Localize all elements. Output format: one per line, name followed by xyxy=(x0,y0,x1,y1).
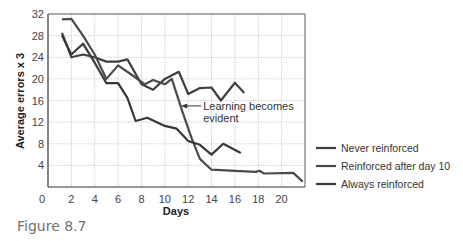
x-tick-label: 14 xyxy=(205,193,217,205)
x-tick-label: 12 xyxy=(182,193,194,205)
annotation-text: evident xyxy=(203,112,238,124)
y-tick-label: 4 xyxy=(38,159,44,171)
learning-annotation: Learning becomesevident xyxy=(181,100,294,124)
x-tick-label: 18 xyxy=(252,193,264,205)
x-tick-label: 4 xyxy=(92,193,98,205)
y-tick-label: 16 xyxy=(32,95,44,107)
line-chart: 02468101214161820 48121620242832 Learnin… xyxy=(0,0,463,241)
x-tick-label: 10 xyxy=(159,193,171,205)
legend-label-always-reinforced: Always reinforced xyxy=(341,178,424,190)
y-axis-tick-labels: 48121620242832 xyxy=(32,8,44,171)
figure-caption: Figure 8.7 xyxy=(17,218,86,234)
y-tick-label: 8 xyxy=(38,138,44,150)
legend-label-never-reinforced: Never reinforced xyxy=(341,142,419,154)
y-axis-title: Average errors x 3 xyxy=(14,53,26,149)
y-tick-label: 24 xyxy=(32,51,44,63)
x-tick-label: 8 xyxy=(138,193,144,205)
series-line-never-reinforced xyxy=(62,33,244,101)
y-tick-label: 20 xyxy=(32,73,44,85)
x-tick-label: 2 xyxy=(68,193,74,205)
x-axis-title: Days xyxy=(163,205,189,217)
x-tick-label: 20 xyxy=(276,193,288,205)
annotation-text: Learning becomes xyxy=(203,100,294,112)
series-line-always-reinforced xyxy=(62,36,241,155)
y-tick-label: 12 xyxy=(32,116,44,128)
x-axis-tick-labels: 02468101214161820 xyxy=(39,193,288,205)
x-tick-label: 6 xyxy=(115,193,121,205)
legend: Never reinforcedReinforced after day 10A… xyxy=(316,142,450,190)
x-tick-label: 0 xyxy=(39,193,45,205)
legend-label-reinforced-after-day-10: Reinforced after day 10 xyxy=(341,160,450,172)
y-tick-label: 32 xyxy=(32,8,44,20)
y-tick-label: 28 xyxy=(32,30,44,42)
x-tick-label: 16 xyxy=(229,193,241,205)
